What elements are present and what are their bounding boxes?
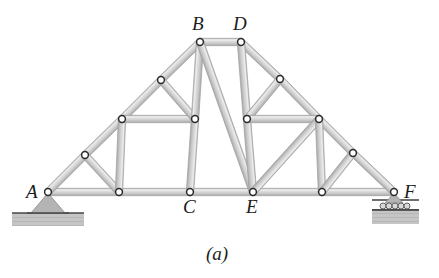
truss-joint-n4 [119, 116, 126, 123]
truss-member-n4-n9 [120, 115, 198, 122]
truss-member-n1-C [117, 188, 193, 195]
member-highlight [46, 151, 86, 191]
truss-joint-n9 [192, 116, 199, 123]
truss-member-E-n2 [251, 188, 325, 195]
member-highlight [320, 117, 357, 154]
truss-joint-E [250, 189, 257, 196]
truss-joint-n10 [244, 116, 251, 123]
member-highlight [354, 151, 398, 193]
member-highlight [242, 40, 284, 80]
truss-member-C-E [188, 188, 256, 195]
truss-member-n10-n7 [245, 115, 322, 122]
joint-label-C: C [183, 197, 196, 216]
roller-circle-1 [380, 203, 386, 209]
truss-joint-n6 [277, 76, 284, 83]
truss-joint-n1 [116, 189, 123, 196]
truss-joint-n7 [316, 116, 323, 123]
member-highlight [281, 77, 323, 120]
truss-figure: ACEFBD (a) [0, 0, 439, 278]
roller-circle-3 [392, 203, 398, 209]
member-highlight [120, 76, 162, 118]
truss-joint-A [45, 189, 52, 196]
member-highlight [253, 120, 322, 196]
truss-joint-C [187, 189, 194, 196]
member-layer [44, 37, 399, 196]
joint-label-A: A [26, 182, 38, 201]
member-highlight [83, 115, 123, 154]
ground-hatch-F [372, 210, 419, 224]
truss-diagram-svg [0, 0, 439, 278]
joint-label-D: D [233, 14, 247, 33]
truss-member-n9-C [186, 117, 199, 195]
member-bar [249, 115, 323, 196]
truss-member-n7-E [248, 115, 323, 197]
joint-label-B: B [192, 14, 204, 33]
truss-joint-F [391, 189, 398, 196]
truss-joint-B [197, 39, 204, 46]
joint-label-F: F [404, 182, 416, 201]
roller-circle-2 [386, 203, 392, 209]
truss-member-n10-E [243, 117, 257, 196]
figure-caption: (a) [206, 244, 228, 263]
truss-joint-n5 [158, 77, 165, 84]
truss-joint-n2 [319, 189, 326, 196]
joint-label-E: E [246, 197, 258, 216]
truss-member-A-n1 [46, 188, 122, 195]
roller-circle-5 [404, 203, 410, 209]
ground-hatch-A [12, 213, 84, 226]
member-highlight [245, 75, 281, 118]
truss-joint-D [238, 39, 245, 46]
roller-circle-4 [398, 203, 404, 209]
ground-layer [12, 210, 419, 226]
truss-joint-n3 [82, 152, 89, 159]
truss-joint-n8 [350, 150, 357, 157]
